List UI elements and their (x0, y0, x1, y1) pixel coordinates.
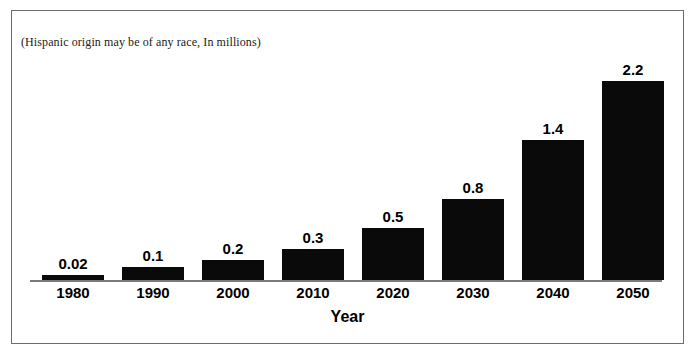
bar-value-label: 1.4 (522, 120, 584, 137)
x-tick-label-2050: 2050 (602, 283, 664, 303)
x-tick-label-2010: 2010 (282, 283, 344, 303)
bar-group-2020: 0.5 (362, 60, 424, 280)
x-axis-tick-labels: 19801990200020102020203020402050 (42, 283, 660, 305)
bar-value-label: 0.3 (282, 229, 344, 246)
x-tick-label-1980: 1980 (42, 283, 104, 303)
bar-value-label: 0.5 (362, 208, 424, 225)
bar-group-2040: 1.4 (522, 60, 584, 280)
bar-group-2010: 0.3 (282, 60, 344, 280)
bar-value-label: 0.02 (42, 255, 104, 272)
bar (362, 228, 424, 280)
bar (602, 81, 664, 280)
bar (282, 249, 344, 280)
bar (442, 199, 504, 280)
bar-value-label: 0.8 (442, 179, 504, 196)
bar (202, 260, 264, 280)
x-tick-label-2020: 2020 (362, 283, 424, 303)
bar-group-2030: 0.8 (442, 60, 504, 280)
bar (122, 267, 184, 280)
bar-group-1990: 0.1 (122, 60, 184, 280)
bar-group-1980: 0.02 (42, 60, 104, 280)
bar (522, 140, 584, 280)
chart-figure: (Hispanic origin may be of any race, In … (0, 0, 695, 355)
plot-area: 0.020.10.20.30.50.81.42.2 (42, 60, 660, 280)
bar-value-label: 0.2 (202, 240, 264, 257)
chart-caption: (Hispanic origin may be of any race, In … (21, 35, 261, 50)
x-axis-title: Year (0, 308, 695, 326)
x-axis-line (30, 280, 662, 282)
bar-group-2000: 0.2 (202, 60, 264, 280)
x-tick-label-1990: 1990 (122, 283, 184, 303)
bar-group-2050: 2.2 (602, 60, 664, 280)
x-tick-label-2000: 2000 (202, 283, 264, 303)
bar-value-label: 0.1 (122, 247, 184, 264)
x-tick-label-2030: 2030 (442, 283, 504, 303)
bar-value-label: 2.2 (602, 61, 664, 78)
x-tick-label-2040: 2040 (522, 283, 584, 303)
